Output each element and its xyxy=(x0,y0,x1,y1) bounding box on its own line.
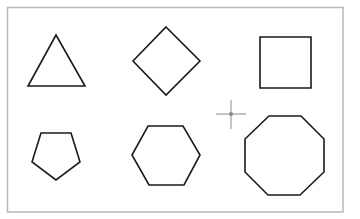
crosshair-center xyxy=(229,112,233,116)
drawing-canvas[interactable] xyxy=(0,0,360,219)
